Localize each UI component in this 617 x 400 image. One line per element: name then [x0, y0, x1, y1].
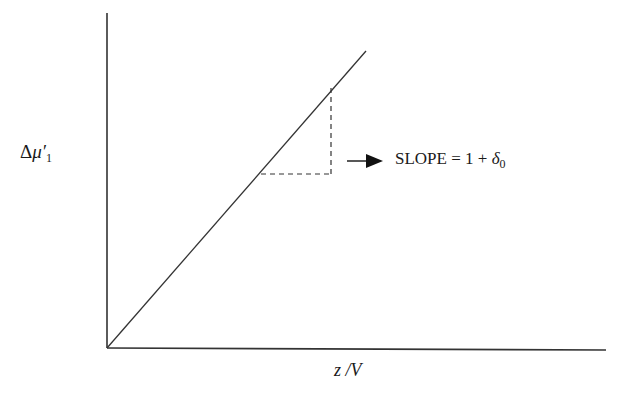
delta-symbol: δ [492, 149, 500, 168]
y-axis-label: Δμ′1 [20, 141, 52, 166]
delta-symbol: Δ [20, 141, 32, 162]
x-axis-label: z /V [334, 360, 362, 381]
slope-subscript: 0 [500, 157, 506, 171]
slope-annotation: SLOPE = 1 + δ0 [395, 149, 506, 172]
slope-text: SLOPE = 1 + [395, 149, 492, 168]
diagram-canvas [0, 0, 617, 400]
arrow-right-icon [347, 154, 383, 168]
x-axis [107, 348, 606, 350]
data-line [107, 51, 366, 348]
mu-symbol: μ′ [32, 141, 46, 162]
y-label-subscript: 1 [46, 151, 52, 165]
